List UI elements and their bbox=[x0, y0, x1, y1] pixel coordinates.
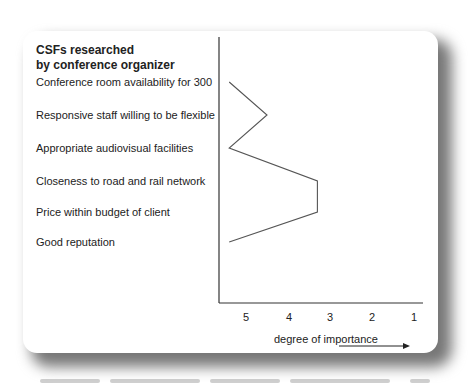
chart-panel: CSFs researched by conference organizer … bbox=[23, 31, 438, 353]
profile-plot bbox=[23, 31, 438, 353]
importance-line bbox=[229, 82, 317, 242]
x-axis-label: degree of importance bbox=[274, 333, 378, 345]
page-edge-text bbox=[0, 376, 473, 389]
tick-label: 3 bbox=[323, 311, 337, 323]
tick-label: 5 bbox=[239, 311, 253, 323]
arrow-right-icon bbox=[403, 343, 410, 349]
tick-label: 2 bbox=[365, 311, 379, 323]
tick-label: 1 bbox=[407, 311, 421, 323]
tick-label: 4 bbox=[282, 311, 296, 323]
